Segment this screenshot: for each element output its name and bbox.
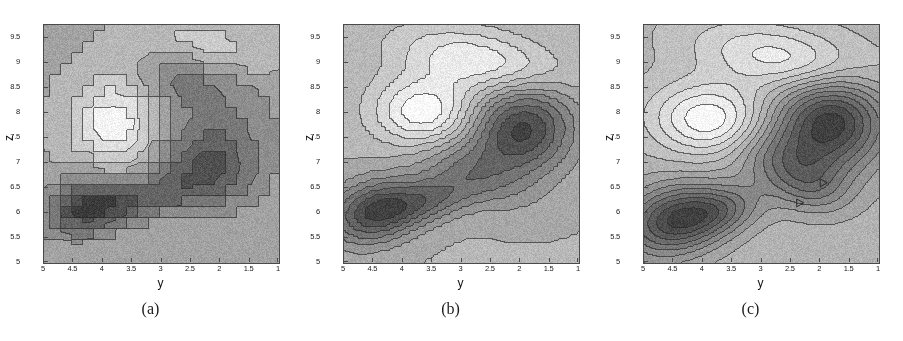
x-tick-label: 4 [687,264,717,273]
x-tickmark [731,258,732,262]
x-tick-label: 4.5 [657,264,687,273]
y-tickmark [344,137,348,138]
y-tickmark [344,62,348,63]
x-tick-label: 2.5 [775,264,805,273]
y-tickmark [344,212,348,213]
y-axis-label: z [302,135,316,141]
y-tick-label: 9 [280,58,320,66]
y-tick-label: 5.5 [580,233,620,241]
x-axis-label: y [343,276,578,290]
y-tickmark [344,37,348,38]
y-tick-label: 9 [580,58,620,66]
panel-c: 54.543.532.521.5155.566.577.588.599.5yz(… [600,0,901,341]
y-tickmark [344,87,348,88]
plot-frame-a [43,24,280,264]
x-tickmark [877,258,878,262]
y-tickmark [44,62,48,63]
panel-caption-a: (a) [0,300,301,318]
x-tick-label: 3 [146,264,176,273]
y-tickmark [44,237,48,238]
y-axis-label: z [2,135,16,141]
y-tick-label: 8.5 [0,83,20,91]
y-tick-label: 6 [580,208,620,216]
x-tickmark [577,258,578,262]
y-tickmark [44,212,48,213]
y-tick-label: 6 [280,208,320,216]
x-tick-label: 2.5 [175,264,205,273]
y-tickmark [344,187,348,188]
x-tick-label: 3 [446,264,476,273]
y-tick-label: 5.5 [280,233,320,241]
x-tickmark [490,258,491,262]
x-tickmark [277,258,278,262]
y-tickmark [44,112,48,113]
x-tick-label: 2 [504,264,534,273]
y-tickmark [644,237,648,238]
x-tickmark [219,258,220,262]
y-tick-label: 6.5 [580,183,620,191]
y-tickmark [344,162,348,163]
x-tick-label: 2.5 [475,264,505,273]
x-tickmark [461,258,462,262]
x-axis-label: y [643,276,878,290]
x-tickmark [431,258,432,262]
x-tickmark [790,258,791,262]
y-tick-label: 8 [280,108,320,116]
x-tick-label: 4.5 [57,264,87,273]
y-tick-label: 6 [0,208,20,216]
contour-plot-a [44,25,279,263]
y-tickmark [644,112,648,113]
x-tick-label: 5 [628,264,658,273]
panel-a: 54.543.532.521.5155.566.577.588.599.5yz(… [0,0,301,341]
contour-plot-c [644,25,879,263]
y-tickmark [644,261,648,262]
x-tick-label: 1.5 [534,264,564,273]
x-tickmark [161,258,162,262]
x-tick-label: 5 [328,264,358,273]
x-tick-label: 2 [804,264,834,273]
x-tickmark [402,258,403,262]
panel-b: 54.543.532.521.5155.566.577.588.599.5yz(… [300,0,601,341]
plot-frame-c [643,24,880,264]
x-tick-label: 4 [87,264,117,273]
panel-caption-b: (b) [300,300,601,318]
x-tick-label: 3.5 [416,264,446,273]
plot-frame-b [343,24,580,264]
y-tickmark [644,187,648,188]
x-tick-label: 3.5 [116,264,146,273]
y-tickmark [344,261,348,262]
y-tickmark [44,137,48,138]
x-tick-label: 3.5 [716,264,746,273]
y-tick-label: 5 [280,258,320,266]
y-tick-label: 8 [580,108,620,116]
x-tick-label: 1 [863,264,893,273]
x-tickmark [249,258,250,262]
panel-caption-c: (c) [600,300,901,318]
y-tick-label: 6.5 [0,183,20,191]
x-tickmark [702,258,703,262]
y-tick-label: 5.5 [0,233,20,241]
y-tickmark [644,62,648,63]
y-tickmark [44,261,48,262]
y-tick-label: 7 [0,158,20,166]
y-tickmark [344,112,348,113]
y-tick-label: 8.5 [580,83,620,91]
x-tickmark [372,258,373,262]
y-tick-label: 9.5 [280,33,320,41]
y-tick-label: 7 [280,158,320,166]
x-tickmark [519,258,520,262]
y-tickmark [644,137,648,138]
y-tickmark [644,212,648,213]
x-tickmark [672,258,673,262]
x-tick-label: 5 [28,264,58,273]
x-tickmark [72,258,73,262]
x-tickmark [102,258,103,262]
y-tick-label: 5 [0,258,20,266]
x-tickmark [819,258,820,262]
x-tickmark [131,258,132,262]
x-tick-label: 1.5 [234,264,264,273]
x-tickmark [549,258,550,262]
y-tickmark [344,237,348,238]
x-tickmark [190,258,191,262]
x-axis-label: y [43,276,278,290]
